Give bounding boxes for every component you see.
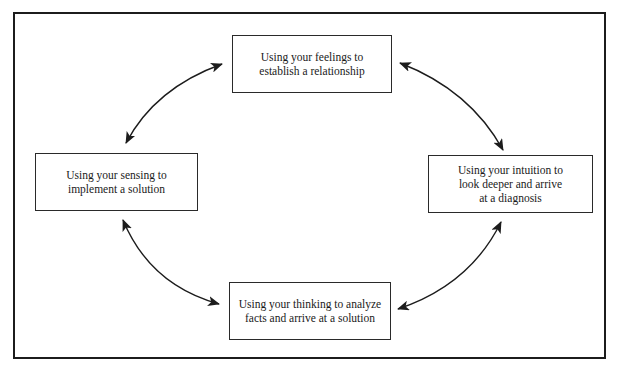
node-feelings-label: Using your feelings to establish a relat… <box>259 50 364 78</box>
node-sensing-label: Using your sensing to implement a soluti… <box>66 168 167 196</box>
node-intuition: Using your intuition to look deeper and … <box>428 155 593 213</box>
node-intuition-label: Using your intuition to look deeper and … <box>458 163 563 205</box>
arrow-top-right <box>400 63 503 150</box>
node-thinking: Using your thinking to analyze facts and… <box>229 282 391 340</box>
node-sensing: Using your sensing to implement a soluti… <box>35 153 198 211</box>
arrow-left-top <box>126 64 222 143</box>
node-thinking-label: Using your thinking to analyze facts and… <box>239 297 381 325</box>
arrow-bottom-left <box>123 220 219 304</box>
node-feelings: Using your feelings to establish a relat… <box>232 35 392 93</box>
arrow-right-bottom <box>398 222 501 309</box>
